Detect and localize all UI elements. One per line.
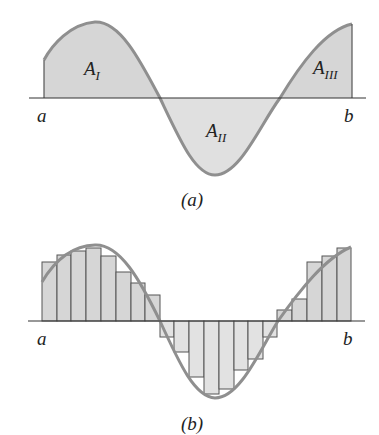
riemann-bar <box>174 321 189 352</box>
riemann-bar <box>292 299 307 321</box>
riemann-bar <box>189 321 204 377</box>
riemann-bar <box>86 248 101 321</box>
label-a: a <box>37 105 47 126</box>
riemann-bar <box>71 251 86 321</box>
label-a: a <box>37 328 47 349</box>
riemann-bar <box>116 272 131 321</box>
riemann-bar <box>57 255 71 321</box>
label-b: b <box>343 328 353 349</box>
caption-a: (a) <box>181 189 203 211</box>
riemann-bar <box>204 321 219 394</box>
panel-b: a b (b) <box>28 245 365 435</box>
riemann-bar <box>234 321 248 370</box>
label-b: b <box>344 105 354 126</box>
riemann-bar <box>219 321 234 389</box>
riemann-diagram: AI AII AIII a b (a) a b (b) <box>0 0 379 435</box>
riemann-bar <box>337 248 351 321</box>
riemann-bar <box>101 256 116 321</box>
panel-a: AI AII AIII a b (a) <box>29 22 366 211</box>
caption-b: (b) <box>181 413 203 435</box>
